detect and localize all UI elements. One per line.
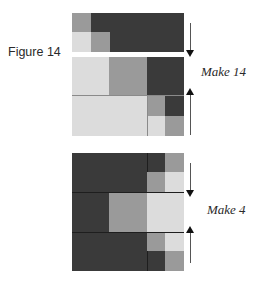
figure-title: Figure 14	[8, 45, 61, 59]
dimension-line	[190, 95, 191, 135]
patch-dark	[165, 96, 184, 116]
patch-light	[165, 232, 184, 251]
unit-14-main-block	[72, 57, 184, 136]
patch-light-wide	[72, 96, 147, 136]
patch-light	[165, 172, 184, 192]
dimension-line	[190, 163, 191, 191]
patch-dark	[72, 192, 109, 232]
patch-medium	[147, 172, 165, 192]
dimension-line	[190, 23, 191, 51]
patch-medium	[165, 116, 184, 136]
patch-light	[72, 57, 109, 96]
arrow-up-icon	[186, 88, 194, 95]
patch-medium	[165, 251, 184, 271]
patch-medium	[91, 32, 110, 52]
patch-light	[147, 116, 165, 136]
patch-medium	[109, 192, 147, 232]
unit-14-top-strip	[72, 13, 184, 52]
patch-medium	[72, 13, 91, 32]
patch-medium	[109, 57, 147, 96]
seam-line	[72, 95, 184, 96]
seam-line	[147, 96, 148, 136]
arrow-down-icon	[186, 190, 194, 197]
unit-4-block	[72, 153, 184, 271]
seam-line	[147, 153, 148, 172]
seam-line	[147, 251, 148, 271]
seam-line	[72, 192, 184, 193]
seam-line	[72, 232, 184, 233]
patch-dark-rect	[110, 13, 184, 52]
arrow-down-icon	[186, 50, 194, 57]
patch-medium	[147, 96, 165, 116]
patch-dark	[91, 13, 110, 32]
unit-label: Make 4	[207, 202, 246, 218]
arrow-up-icon	[186, 226, 194, 233]
patch-medium	[147, 232, 165, 251]
patch-dark	[147, 57, 184, 96]
patch-light	[72, 32, 91, 52]
unit-label: Make 14	[201, 64, 246, 80]
patch-medium	[165, 153, 184, 172]
dimension-line	[190, 233, 191, 263]
patch-light	[147, 192, 184, 232]
